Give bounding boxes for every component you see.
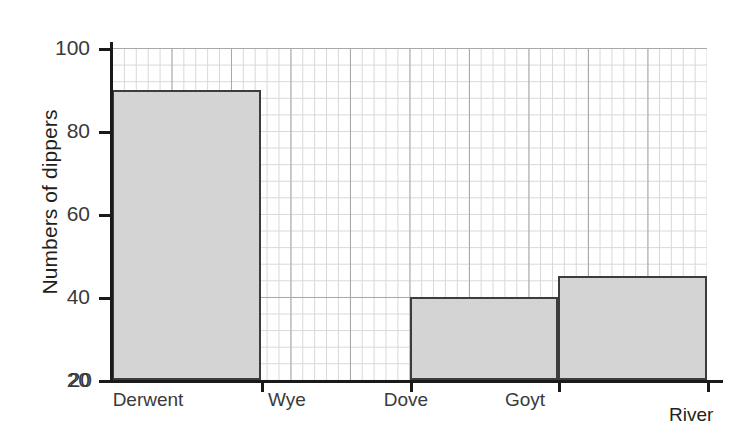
- y-tick-label-40: 40: [30, 285, 90, 309]
- y-tick-label-100: 100: [30, 36, 90, 60]
- bar-dove: [410, 297, 559, 380]
- bar-derwent: [112, 90, 261, 381]
- bar-goyt: [558, 276, 707, 380]
- y-tick-label-80: 80: [30, 119, 90, 143]
- x-axis-line: [110, 380, 723, 383]
- x-axis-title: River: [669, 404, 713, 426]
- plot-area: [112, 48, 707, 380]
- x-tick-label-goyt: Goyt: [445, 389, 605, 411]
- x-tick-4: [707, 380, 710, 392]
- y-tick-40: [99, 297, 111, 300]
- y-tick-20: [99, 380, 111, 383]
- y-baseline-label: 20: [52, 368, 92, 392]
- bar-chart: Numbers of dippers 100 80 60 40 20 Derwe…: [0, 0, 744, 428]
- y-tick-label-60: 60: [30, 202, 90, 226]
- y-axis-line: [110, 42, 113, 383]
- y-tick-60: [99, 214, 111, 217]
- y-tick-100: [99, 48, 111, 51]
- y-tick-label-group: 100 80 60 40 20: [26, 0, 90, 428]
- y-tick-80: [99, 131, 111, 134]
- x-tick-label-derwent: Derwent: [68, 389, 228, 411]
- bars-layer: [112, 48, 707, 380]
